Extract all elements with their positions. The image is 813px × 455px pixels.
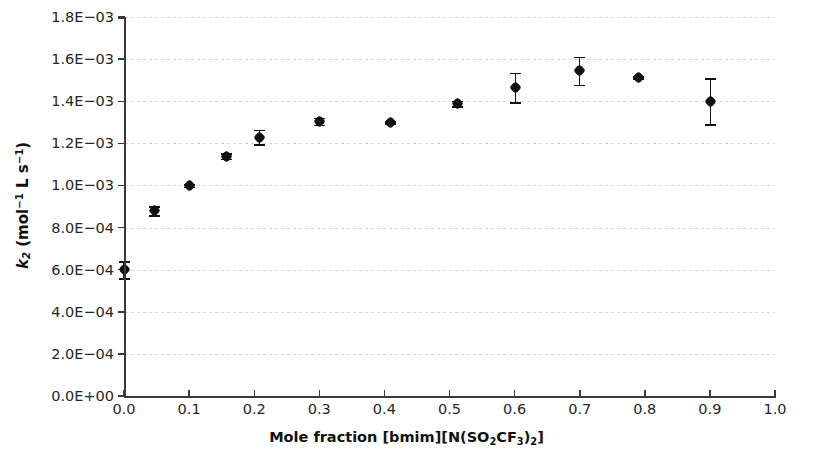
y-axis-unit-sup2: −1	[14, 149, 25, 165]
x-axis-tick-label: 0.7	[557, 402, 603, 417]
x-axis-tick-label: 0.0	[101, 402, 147, 417]
y-axis-symbol-subscript: 2	[21, 252, 32, 259]
y-axis-tick-label: 1.2E−03	[22, 136, 114, 151]
error-bar-cap-top	[574, 57, 585, 59]
y-axis-tick-label: 2.0E−04	[22, 347, 114, 362]
y-axis-tick-label: 1.6E−03	[22, 52, 114, 67]
data-point-marker	[633, 71, 646, 84]
y-axis-tick-label: 1.8E−03	[22, 10, 114, 25]
error-bar-cap-bottom	[254, 144, 265, 146]
x-axis-tick-label: 0.8	[622, 402, 668, 417]
gridline	[125, 17, 775, 18]
x-axis-title: Mole fraction [bmim][N(SO2CF3)2]	[0, 429, 813, 447]
error-bar-cap-bottom	[510, 102, 521, 104]
error-bar-cap-bottom	[574, 85, 585, 87]
y-axis-unit-sup1: −1	[14, 193, 25, 209]
gridline	[125, 228, 775, 229]
error-bar-cap-top	[254, 130, 265, 132]
gridline	[125, 185, 775, 186]
y-axis-tick-label: 6.0E−04	[22, 263, 114, 278]
gridline	[125, 59, 775, 60]
data-point-marker	[573, 64, 586, 77]
x-axis-right-cap	[774, 390, 776, 397]
data-point-marker	[183, 179, 196, 192]
y-axis-title: k2 (mol−1 L s−1)	[14, 90, 33, 320]
chart-figure: k2 (mol−1 L s−1) Mole fraction [bmim][N(…	[0, 0, 813, 455]
data-point-marker	[385, 116, 398, 129]
x-axis-line	[124, 396, 776, 398]
data-point-marker	[451, 97, 464, 110]
x-axis-tick-label: 1.0	[752, 402, 798, 417]
data-point-marker	[704, 95, 717, 108]
x-axis-title-post: ]	[537, 429, 544, 445]
y-axis-tick-label: 8.0E−04	[22, 221, 114, 236]
gridline	[125, 143, 775, 144]
gridline	[125, 101, 775, 102]
error-bar-cap-bottom	[705, 124, 716, 126]
x-axis-tick-label: 0.2	[231, 402, 277, 417]
y-axis-tick-label: 4.0E−04	[22, 305, 114, 320]
x-axis-tick-label: 0.3	[296, 402, 342, 417]
x-axis-title-pre: Mole fraction [bmim][N(SO	[269, 429, 489, 445]
x-axis-tick-label: 0.9	[687, 402, 733, 417]
y-axis-line	[124, 17, 126, 397]
y-axis-tick-label: 1.0E−03	[22, 178, 114, 193]
x-axis-tick-label: 0.5	[427, 402, 473, 417]
gridline	[125, 312, 775, 313]
x-axis-tick-label: 0.6	[492, 402, 538, 417]
data-point-marker	[509, 81, 522, 94]
x-axis-title-mid: CF	[496, 429, 517, 445]
y-axis-tick-label: 1.4E−03	[22, 94, 114, 109]
error-bar-cap-top	[510, 73, 521, 75]
y-axis-top-cap	[118, 17, 125, 19]
gridline	[125, 270, 775, 271]
error-bar-cap-top	[705, 78, 716, 80]
x-axis-tick-label: 0.4	[361, 402, 407, 417]
x-axis-title-sub2: 3	[517, 436, 524, 447]
data-point-marker	[253, 131, 266, 144]
gridline	[125, 354, 775, 355]
x-axis-tick-label: 0.1	[166, 402, 212, 417]
